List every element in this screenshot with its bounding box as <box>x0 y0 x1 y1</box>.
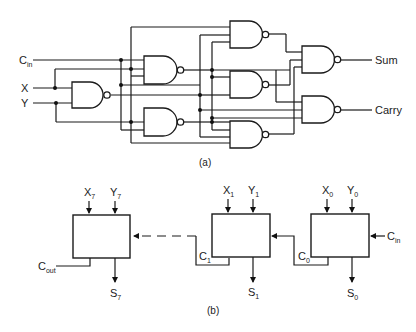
caption-b: (b) <box>207 305 219 316</box>
y7-label: Y7 <box>110 186 121 200</box>
y1-label: Y1 <box>248 184 259 198</box>
adder-block-stage-0: X0 Y0 S0 Cin <box>311 184 401 301</box>
full-adder-diagram: Cin X Y <box>0 0 416 332</box>
s1-label: S1 <box>248 286 259 300</box>
nand-gate-2 <box>144 108 184 136</box>
ripple-carry-adder-block-diagram: X7 Y7 S7 Cout C1 X1 Y1 S1 C0 <box>38 184 401 316</box>
nand-gate-1 <box>144 56 184 84</box>
y-label: Y <box>21 97 29 109</box>
nand-gate-3 <box>230 21 269 48</box>
x-label: X <box>21 82 29 94</box>
cin-b-label: Cin <box>387 230 401 244</box>
nand-gate-4 <box>230 71 269 98</box>
cout-label: Cout <box>38 260 56 274</box>
adder-block-stage-7: X7 Y7 S7 Cout <box>38 186 130 301</box>
nand-gate-input <box>72 82 110 108</box>
x1-label: X1 <box>223 184 234 198</box>
nand-gate-sum <box>302 46 341 73</box>
x7-label: X7 <box>84 186 95 200</box>
adder-block-stage-1: X1 Y1 S1 <box>212 184 270 300</box>
cin-label: Cin <box>19 54 33 68</box>
carry-label: Carry <box>375 104 402 116</box>
s0-label: S0 <box>347 287 358 301</box>
c0-label: C0 <box>298 250 310 264</box>
c1-label: C1 <box>199 250 211 264</box>
nand-full-adder-circuit: Cin X Y <box>19 21 402 168</box>
nand-gate-carry <box>302 96 341 123</box>
y0-label: Y0 <box>347 184 358 198</box>
sum-label: Sum <box>375 54 398 66</box>
s7-label: S7 <box>110 287 121 301</box>
caption-a: (a) <box>199 157 211 168</box>
nand-gate-5 <box>230 121 269 148</box>
x0-label: X0 <box>322 184 333 198</box>
